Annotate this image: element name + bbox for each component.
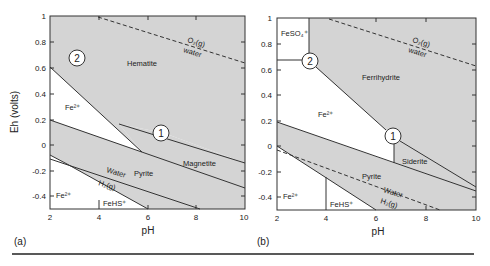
- svg-text:1: 1: [390, 131, 396, 142]
- panel-b: 1 0.8 0.6 0.4 0.2 0 -0.2 -0.4 2 4 6 8 10…: [257, 14, 481, 247]
- region-label-fe2-upper: Fe²⁺: [318, 110, 333, 119]
- eh-ph-diagram-figure: 1 0.8 0.6 0.4 0.2 0 -0.2 -0.4 2 4 6 8 10…: [0, 0, 490, 266]
- panel-tag: (a): [14, 236, 26, 247]
- region-label-fehs: FeHS⁺: [330, 200, 353, 209]
- x-tick: 4: [97, 213, 102, 222]
- y-tick: 0: [42, 141, 47, 150]
- region-label-fe2-upper: Fe²⁺: [65, 103, 80, 112]
- y-tick: 0.8: [35, 38, 47, 47]
- region-label-siderite: Siderite: [402, 157, 427, 166]
- y-tick: 0.4: [261, 91, 273, 100]
- region-label-fe2-lower: Fe²⁺: [283, 192, 298, 201]
- x-axis-title: pH: [372, 226, 385, 237]
- y-tick: -0.4: [258, 193, 272, 202]
- x-tick: 8: [424, 214, 429, 223]
- y-tick: -0.2: [32, 167, 46, 176]
- panel-tag: (b): [257, 236, 269, 247]
- y-tick: 1: [268, 14, 273, 23]
- region-label-pyrite: Pyrite: [134, 169, 153, 178]
- y-tick: 1: [42, 12, 47, 21]
- x-tick: 6: [146, 213, 151, 222]
- region-label-hematite: Hematite: [127, 59, 157, 68]
- y-tick: 0.4: [35, 90, 47, 99]
- x-tick: 4: [324, 214, 329, 223]
- y-tick: 0.2: [261, 117, 273, 126]
- y-tick: 0.2: [35, 116, 47, 125]
- x-axis-title: pH: [142, 225, 155, 236]
- x-tick: 10: [472, 214, 481, 223]
- y-tick: -0.4: [32, 192, 46, 201]
- x-tick: 2: [275, 214, 280, 223]
- circle-marker-2: 2: [69, 50, 85, 66]
- region-label-ferrihydrite: Ferrihydrite: [362, 73, 400, 82]
- circle-marker-1: 1: [385, 128, 401, 144]
- y-tick: 0: [268, 142, 273, 151]
- region-label-magnetite: Magnetite: [183, 159, 216, 168]
- circle-marker-1: 1: [153, 125, 169, 141]
- y-tick: 0.8: [261, 40, 273, 49]
- region-label-pyrite: Pyrite: [362, 172, 381, 181]
- y-tick: -0.2: [258, 168, 272, 177]
- circle-marker-2: 2: [302, 53, 318, 69]
- region-label-fehs: FeHS⁺: [103, 199, 126, 208]
- x-tick: 6: [374, 214, 379, 223]
- y-tick: 0.6: [35, 64, 47, 73]
- svg-text:2: 2: [307, 56, 313, 67]
- y-axis-title: Eh (volts): [9, 91, 20, 133]
- panel-a: 1 0.8 0.6 0.4 0.2 0 -0.2 -0.4 2 4 6 8 10…: [14, 12, 249, 247]
- svg-text:1: 1: [158, 128, 164, 139]
- svg-text:2: 2: [74, 53, 80, 64]
- y-tick: 0.6: [261, 66, 273, 75]
- x-tick: 10: [240, 213, 249, 222]
- region-label-feso4: FeSO₄⁺: [281, 29, 308, 38]
- region-label-fe2-lower: Fe²⁺: [56, 191, 71, 200]
- x-tick: 2: [48, 213, 53, 222]
- x-tick: 8: [194, 213, 199, 222]
